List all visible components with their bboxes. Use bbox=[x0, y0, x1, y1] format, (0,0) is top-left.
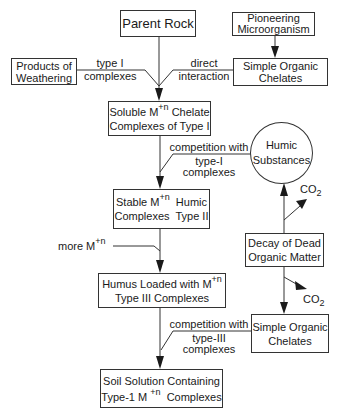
edge-label-line1: competition with bbox=[168, 141, 250, 154]
node-stable-humic-complexes-type-ii: Stable M+n Humic Complexes Type II bbox=[113, 189, 210, 229]
edge-label-line3: complexes bbox=[168, 166, 250, 179]
node-humus-loaded-type-iii: Humus Loaded with M+n Type III Complexes bbox=[98, 273, 226, 308]
node-label-line2: Complexes of Type I bbox=[109, 119, 209, 133]
node-label-line1: Products of bbox=[16, 60, 72, 72]
node-label: Parent Rock bbox=[122, 17, 194, 31]
arrowhead-icon bbox=[156, 260, 164, 273]
edge-label-line1: direct bbox=[176, 57, 232, 70]
arrowhead-icon bbox=[280, 183, 288, 196]
node-label-line2: Weathering bbox=[16, 72, 72, 84]
node-label-line2: Chelates bbox=[259, 72, 302, 84]
arrowhead-icon bbox=[280, 302, 288, 314]
arrowhead-icon bbox=[156, 176, 164, 189]
node-simple-organic-chelates-bottom: Simple Organic Chelates bbox=[251, 314, 329, 353]
node-label-line2: Type III Complexes bbox=[115, 291, 209, 305]
node-label-line1: Simple Organic bbox=[252, 320, 327, 334]
node-pioneering-microorganism: Pioneering Microorganism bbox=[232, 12, 315, 36]
edge-label-line1: type I bbox=[84, 57, 136, 70]
arrowhead-icon bbox=[155, 88, 163, 101]
edge-label-line1: competition with bbox=[168, 318, 250, 331]
node-label-line1: Humic bbox=[266, 138, 297, 153]
edge-label-line2: interaction bbox=[176, 70, 232, 83]
edge-label-direct-interaction: direct interaction bbox=[176, 57, 232, 83]
arrowhead-icon bbox=[271, 46, 279, 58]
edge-label-line3: complexes bbox=[168, 343, 250, 356]
node-label-line2: Type-1 M +n Complexes bbox=[101, 389, 221, 405]
node-label-line2: Complexes Type II bbox=[115, 209, 209, 223]
node-label-line1: Soluble M+n Chelate bbox=[109, 105, 209, 119]
node-label-line1: Simple Organic bbox=[243, 60, 318, 72]
node-humic-substances: Humic Substances bbox=[250, 122, 313, 184]
edge-label-competition-type-iii: competition with type-III complexes bbox=[168, 318, 250, 356]
edge-label-more-m: more M+n bbox=[58, 240, 106, 253]
node-soluble-chelate-complexes-type-i: Soluble M+n Chelate Complexes of Type I bbox=[108, 101, 211, 136]
node-label-line1: Humus Loaded with M+n bbox=[102, 277, 222, 291]
node-decay-of-dead-organic-matter: Decay of Dead Organic Matter bbox=[245, 233, 324, 267]
edge-label-co2-bottom: CO2 bbox=[303, 293, 325, 306]
node-soil-solution-type-1-complexes: Soil Solution Containing Type-1 M +n Com… bbox=[100, 369, 223, 408]
arrowhead-icon bbox=[156, 356, 164, 369]
node-label-line1: Decay of Dead bbox=[248, 236, 321, 250]
soil-metal-complex-flow-diagram: Parent Rock Pioneering Microorganism Pro… bbox=[0, 0, 341, 417]
node-label-line2: Substances bbox=[253, 153, 310, 168]
edge-label-type-i-complexes: type I complexes bbox=[84, 57, 136, 83]
arrowhead-icon bbox=[295, 281, 307, 290]
node-products-of-weathering: Products of Weathering bbox=[11, 58, 77, 85]
node-parent-rock: Parent Rock bbox=[120, 10, 196, 37]
edge-label-co2-top: CO2 bbox=[300, 183, 322, 196]
node-label-line1: Stable M+n Humic bbox=[116, 195, 207, 209]
node-label-line2: Chelates bbox=[268, 334, 311, 348]
node-label-line1: Soil Solution Containing bbox=[103, 373, 220, 389]
edge-label-competition-type-i: competition with type-I complexes bbox=[168, 141, 250, 179]
edge-label-line2: complexes bbox=[84, 70, 136, 83]
node-simple-organic-chelates-top: Simple Organic Chelates bbox=[233, 58, 328, 86]
node-label-line2: Microorganism bbox=[237, 24, 309, 35]
node-label-line2: Organic Matter bbox=[248, 250, 321, 264]
